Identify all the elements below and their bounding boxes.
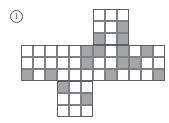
grid-cell-empty[interactable] (81, 105, 93, 117)
grid-cell-empty[interactable] (69, 45, 81, 57)
net-grid (0, 0, 169, 123)
grid-cell-empty[interactable] (129, 69, 141, 81)
grid-cell-empty[interactable] (141, 57, 153, 69)
grid-cell-shaded[interactable] (45, 69, 57, 81)
grid-cell-empty[interactable] (45, 45, 57, 57)
grid-cell-empty[interactable] (33, 45, 45, 57)
grid-cell-shaded[interactable] (81, 57, 93, 69)
grid-cell-empty[interactable] (57, 105, 69, 117)
grid-cell-empty[interactable] (69, 69, 81, 81)
grid-cell-shaded[interactable] (81, 45, 93, 57)
grid-cell-empty[interactable] (153, 57, 165, 69)
grid-cell-empty[interactable] (105, 21, 117, 33)
grid-cell-shaded[interactable] (81, 93, 93, 105)
grid-cell-shaded[interactable] (141, 45, 153, 57)
grid-cell-shaded[interactable] (117, 57, 129, 69)
grid-cell-empty[interactable] (117, 9, 129, 21)
grid-cell-empty[interactable] (57, 57, 69, 69)
grid-cell-empty[interactable] (141, 69, 153, 81)
grid-cell-empty[interactable] (153, 45, 165, 57)
grid-cell-shaded[interactable] (117, 21, 129, 33)
grid-cell-shaded[interactable] (105, 69, 117, 81)
figure-canvas: 1 (0, 0, 169, 123)
grid-cell-empty[interactable] (129, 45, 141, 57)
grid-cell-empty[interactable] (93, 9, 105, 21)
grid-cell-empty[interactable] (81, 81, 93, 93)
grid-cell-empty[interactable] (105, 9, 117, 21)
grid-cell-empty[interactable] (105, 45, 117, 57)
grid-cell-shaded[interactable] (153, 69, 165, 81)
grid-cell-shaded[interactable] (93, 33, 105, 45)
grid-cell-empty[interactable] (105, 33, 117, 45)
grid-cell-empty[interactable] (93, 69, 105, 81)
grid-cell-empty[interactable] (93, 21, 105, 33)
grid-cell-empty[interactable] (21, 45, 33, 57)
grid-cell-shaded[interactable] (117, 33, 129, 45)
grid-cell-empty[interactable] (57, 45, 69, 57)
grid-cell-shaded[interactable] (21, 69, 33, 81)
grid-cell-empty[interactable] (69, 93, 81, 105)
grid-cell-empty[interactable] (45, 57, 57, 69)
grid-cell-empty[interactable] (57, 93, 69, 105)
grid-cell-empty[interactable] (81, 69, 93, 81)
grid-cell-shaded[interactable] (117, 45, 129, 57)
grid-cell-empty[interactable] (33, 57, 45, 69)
grid-cell-empty[interactable] (117, 69, 129, 81)
grid-cell-empty[interactable] (69, 105, 81, 117)
grid-cell-empty[interactable] (57, 69, 69, 81)
grid-cell-empty[interactable] (105, 57, 117, 69)
grid-cell-shaded[interactable] (57, 81, 69, 93)
grid-cell-empty[interactable] (69, 57, 81, 69)
grid-cell-empty[interactable] (21, 57, 33, 69)
grid-cell-empty[interactable] (33, 69, 45, 81)
grid-cell-shaded[interactable] (129, 57, 141, 69)
grid-cell-empty[interactable] (69, 81, 81, 93)
grid-cell-shaded[interactable] (93, 45, 105, 57)
grid-cell-empty[interactable] (93, 57, 105, 69)
